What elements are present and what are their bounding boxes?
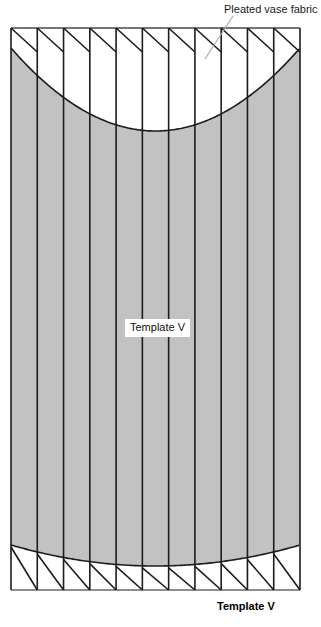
pleat-tab-diagonal-top [169, 28, 195, 52]
callout-label-pleated-vase-fabric: Pleated vase fabric [224, 3, 318, 16]
pleat-tab-diagonal-bottom [274, 554, 300, 590]
inline-label-template-v: Template V [125, 319, 190, 337]
pleat-tab-diagonal-top [274, 28, 300, 52]
pleat-tab-diagonal-top [221, 28, 247, 52]
pleat-tab-diagonal-bottom [195, 566, 221, 590]
diagram-canvas: Pleated vase fabric Template V Template … [0, 0, 321, 627]
pleat-tab-diagonal-top [64, 28, 90, 52]
pleat-tab-diagonal-top [11, 28, 37, 52]
curved-fabric-panel [11, 48, 300, 566]
pleat-tab-diagonal-top [247, 28, 273, 52]
pleat-tab-diagonal-bottom [247, 560, 273, 591]
pleat-tab-diagonal-bottom [11, 547, 37, 590]
pleat-tab-diagonal-top [90, 28, 116, 52]
pleat-tab-diagonal-top [142, 28, 168, 52]
pleat-tab-diagonal-bottom [221, 564, 247, 590]
pleat-tab-diagonal-bottom [90, 564, 116, 590]
figure-caption-template-v: Template V [217, 600, 275, 613]
pleat-tab-diagonal-bottom [116, 566, 142, 590]
pleat-tab-diagonal-top [116, 28, 142, 52]
pleat-tab-diagonal-bottom [37, 554, 63, 590]
pleat-tab-diagonal-bottom [142, 568, 168, 590]
pleat-tab-diagonal-bottom [64, 560, 90, 591]
callout-leader-line [205, 16, 233, 59]
pleat-tab-diagonal-bottom [169, 568, 195, 590]
pleat-tab-diagonal-top [37, 28, 63, 52]
top-pleat-tab-group [11, 28, 300, 52]
fabric-fill-region [11, 48, 300, 566]
leader-line-pleated-vase-fabric [205, 16, 233, 59]
pleated-vase-template-drawing [0, 0, 321, 627]
